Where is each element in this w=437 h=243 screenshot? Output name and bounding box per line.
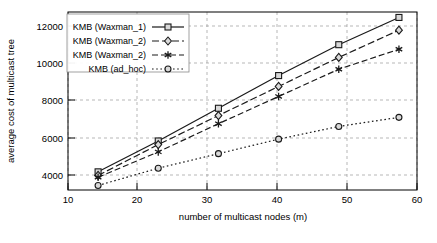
- y-axis-tick-labels: 12000 10000 8000 6000 4000: [37, 21, 63, 181]
- ytick-label-10000: 10000: [37, 58, 63, 69]
- marker-star: [155, 148, 162, 156]
- xtick-label-30: 30: [202, 194, 213, 205]
- marker-square: [396, 14, 402, 20]
- x-axis-title: number of multicast nodes (m): [179, 211, 307, 222]
- marker-circle: [95, 182, 101, 188]
- legend-label-3: KMB (ad_hoc): [88, 64, 146, 74]
- legend-label-1: KMB (Waxman_2): [73, 36, 146, 46]
- x-axis-tick-labels: 10 20 30 40 50 60: [63, 194, 423, 205]
- marker-circle: [276, 136, 282, 142]
- ytick-label-8000: 8000: [42, 95, 63, 106]
- marker-square: [165, 24, 171, 30]
- ytick-label-6000: 6000: [42, 133, 63, 144]
- xtick-label-40: 40: [272, 194, 283, 205]
- marker-square: [276, 73, 282, 79]
- x-axis-ticks: [68, 183, 417, 190]
- xtick-label-50: 50: [342, 194, 353, 205]
- marker-star: [335, 65, 342, 73]
- marker-circle: [336, 123, 342, 129]
- marker-diamond: [396, 26, 403, 34]
- legend: KMB (Waxman_1)KMB (Waxman_2)KMB (Waxman_…: [67, 14, 189, 74]
- chart-figure: 12000 10000 8000 6000 4000 10 20 30 40 5…: [0, 0, 437, 243]
- marker-square: [215, 105, 221, 111]
- ytick-label-4000: 4000: [42, 170, 63, 181]
- marker-square: [336, 42, 342, 48]
- marker-star: [215, 120, 222, 128]
- marker-diamond: [275, 82, 282, 90]
- marker-diamond: [215, 112, 222, 120]
- marker-star: [275, 93, 282, 101]
- ytick-label-12000: 12000: [37, 21, 63, 32]
- legend-label-0: KMB (Waxman_1): [73, 22, 146, 32]
- line-chart: 12000 10000 8000 6000 4000 10 20 30 40 5…: [0, 0, 437, 243]
- xtick-label-20: 20: [132, 194, 143, 205]
- marker-diamond: [335, 53, 342, 61]
- series-3: [95, 114, 402, 188]
- marker-circle: [155, 165, 161, 171]
- y-axis-title: average cost of multicast tree: [5, 39, 16, 163]
- marker-star: [396, 45, 403, 53]
- marker-circle: [396, 114, 402, 120]
- legend-label-2: KMB (Waxman_2): [73, 50, 146, 60]
- marker-circle: [165, 66, 171, 72]
- marker-circle: [215, 151, 221, 157]
- xtick-label-60: 60: [412, 194, 423, 205]
- xtick-label-10: 10: [63, 194, 74, 205]
